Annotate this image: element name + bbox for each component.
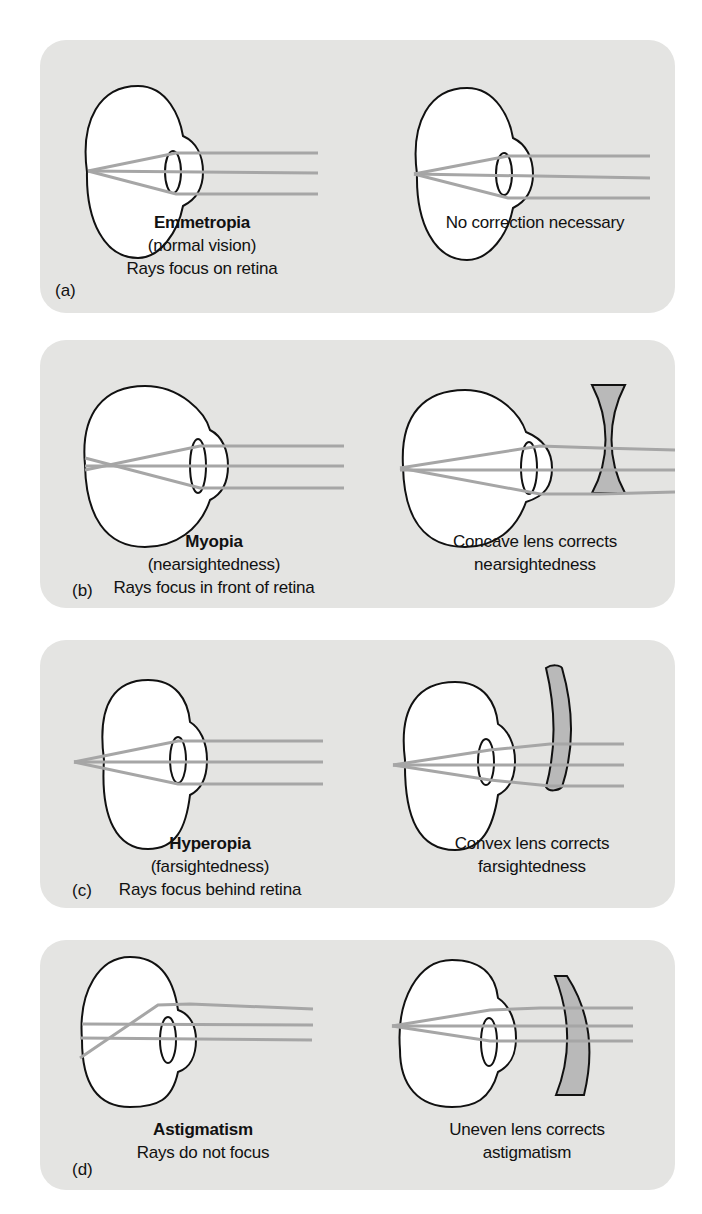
correction-caption: Concave lens corrects nearsightedness <box>453 530 617 576</box>
condition-title: Astigmatism <box>137 1118 270 1141</box>
panel-astigmatism: Astigmatism Rays do not focus Uneven len… <box>40 940 675 1190</box>
panel-label: (b) <box>72 581 93 601</box>
panel-hyperopia: Hyperopia (farsightedness) Rays focus be… <box>40 640 675 908</box>
convex-lens-icon <box>546 665 571 790</box>
concave-lens-icon <box>592 385 625 493</box>
uneven-lens-icon <box>555 976 589 1095</box>
panel-emmetropia: Emmetropia (normal vision) Rays focus on… <box>40 40 675 313</box>
condition-caption: Hyperopia (farsightedness) Rays focus be… <box>119 832 301 901</box>
panel-label: (c) <box>72 881 92 901</box>
condition-title: Myopia <box>113 530 314 553</box>
eye-icon <box>74 680 323 849</box>
correction-caption: No correction necessary <box>446 211 625 234</box>
condition-title: Hyperopia <box>119 832 301 855</box>
eye-icon <box>80 957 313 1107</box>
eye-icon <box>84 386 344 547</box>
correction-caption: Uneven lens corrects astigmatism <box>449 1118 605 1164</box>
condition-caption: Emmetropia (normal vision) Rays focus on… <box>127 211 278 280</box>
eye-icon <box>414 88 650 260</box>
eye-icon <box>400 385 675 547</box>
correction-caption: Convex lens corrects farsightedness <box>455 832 610 878</box>
eye-icon <box>392 960 633 1107</box>
eye-icon <box>393 665 624 850</box>
panel-myopia: Myopia (nearsightedness) Rays focus in f… <box>40 340 675 608</box>
panel-label: (d) <box>72 1160 93 1180</box>
condition-caption: Astigmatism Rays do not focus <box>137 1118 270 1164</box>
condition-title: Emmetropia <box>127 211 278 234</box>
condition-caption: Myopia (nearsightedness) Rays focus in f… <box>113 530 314 599</box>
panel-label: (a) <box>55 281 76 301</box>
